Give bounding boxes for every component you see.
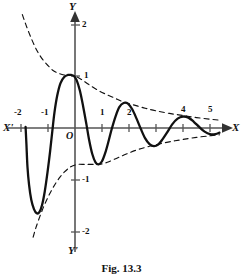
graph-canvas <box>0 0 243 279</box>
x-negative-axis-label: X' <box>3 122 13 133</box>
figure-container: -2 -1 1 2 4 5 2 1 -1 -2 Y Y' X' X O Fig.… <box>0 0 243 279</box>
x-tick-label-2: 2 <box>127 108 132 117</box>
origin-label: O <box>66 131 73 141</box>
y-tick-label-2: 2 <box>82 20 87 29</box>
x-tick-label-4: 4 <box>181 105 186 114</box>
y-tick-label-1: 1 <box>84 71 89 80</box>
y-tick-label--2: -2 <box>82 227 90 236</box>
x-tick-label--2: -2 <box>14 108 22 117</box>
y-axis-label: Y <box>69 1 76 12</box>
y-axis-arrow-icon <box>70 11 80 22</box>
x-axis-label: X <box>232 122 239 133</box>
damped-oscillation-curve <box>26 75 220 214</box>
y-tick-label--1: -1 <box>82 175 90 184</box>
x-tick-label-1: 1 <box>100 108 105 117</box>
lower-envelope-curve <box>33 135 219 237</box>
figure-caption: Fig. 13.3 <box>0 262 243 274</box>
y-negative-axis-label: Y' <box>68 245 78 256</box>
x-tick-label--1: -1 <box>41 108 49 117</box>
x-tick-label-5: 5 <box>208 105 213 114</box>
